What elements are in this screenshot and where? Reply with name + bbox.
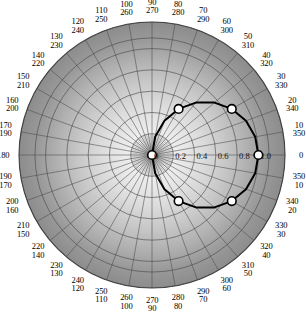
angle-tick-label-secondary: 130 xyxy=(50,269,62,278)
angle-tick-label-290: 29070 xyxy=(197,287,209,304)
angle-tick-label-90: 90270 xyxy=(146,0,158,15)
angle-tick-label-secondary: 80 xyxy=(172,302,184,311)
angle-tick-label-secondary: 270 xyxy=(146,6,158,15)
angle-tick-label-120: 120240 xyxy=(72,17,84,34)
angle-tick-label-340: 34020 xyxy=(286,197,298,214)
angle-tick-label-secondary: 170 xyxy=(0,181,12,190)
angle-tick-label-110: 110250 xyxy=(95,6,107,23)
angle-tick-label-80: 80280 xyxy=(172,0,184,17)
angle-tick-label-40: 40320 xyxy=(260,51,272,68)
angle-tick-label-secondary: 20 xyxy=(286,206,298,215)
angle-tick-label-320: 32040 xyxy=(260,242,272,259)
angle-tick-label-310: 31050 xyxy=(242,261,254,278)
angle-tick-label-secondary: 350 xyxy=(293,129,305,138)
angle-tick-label-50: 50310 xyxy=(242,32,254,49)
angle-tick-label-secondary: 120 xyxy=(72,284,84,293)
angle-tick-label-20: 20340 xyxy=(286,96,298,113)
angle-tick-label-280: 28080 xyxy=(172,293,184,310)
angle-tick-label-secondary: 40 xyxy=(260,251,272,260)
angle-tick-label-secondary: 230 xyxy=(50,41,62,50)
angle-tick-label-secondary: 240 xyxy=(72,26,84,35)
angle-tick-label-260: 260100 xyxy=(120,293,132,310)
angle-tick-label-160: 160200 xyxy=(6,96,18,113)
angle-tick-label-270: 27090 xyxy=(146,296,158,313)
angle-tick-label-350: 35010 xyxy=(293,172,305,189)
angle-tick-label-secondary: 70 xyxy=(197,295,209,304)
angle-tick-label-30: 30330 xyxy=(275,72,287,89)
angle-tick-label-70: 70290 xyxy=(197,6,209,23)
angle-tick-label-secondary: 300 xyxy=(221,26,233,35)
angle-tick-label-secondary: 280 xyxy=(172,8,184,17)
angle-tick-label-secondary: 100 xyxy=(120,302,132,311)
radial-tick-label-0.2: 0.2 xyxy=(175,151,186,161)
angle-tick-label-210: 210150 xyxy=(17,221,29,238)
angle-tick-label-primary: 0 xyxy=(299,150,303,160)
angle-tick-label-150: 150210 xyxy=(17,72,29,89)
radial-tick-label-0.6: 0.6 xyxy=(218,151,229,161)
angle-tick-label-60: 60300 xyxy=(221,17,233,34)
angle-tick-label-secondary: 210 xyxy=(17,81,29,90)
angle-tick-label-300: 30060 xyxy=(221,276,233,293)
angle-tick-label-secondary: 220 xyxy=(32,59,44,68)
angle-tick-label-170: 170190 xyxy=(0,121,12,138)
angle-tick-label-secondary: 200 xyxy=(6,104,18,113)
angle-tick-label-secondary: 290 xyxy=(197,15,209,24)
angle-tick-label-primary: 180 xyxy=(0,150,9,160)
radial-tick-label-0.8: 0.8 xyxy=(239,151,250,161)
angle-tick-label-190: 190170 xyxy=(0,172,12,189)
angle-tick-label-secondary: 110 xyxy=(95,295,107,304)
angle-tick-label-220: 220140 xyxy=(32,242,44,259)
angle-tick-label-secondary: 250 xyxy=(95,15,107,24)
angle-tick-label-200: 200160 xyxy=(6,197,18,214)
angle-tick-label-secondary: 190 xyxy=(0,129,12,138)
angle-tick-label-secondary: 30 xyxy=(275,230,287,239)
angle-tick-label-130: 130230 xyxy=(50,32,62,49)
angle-tick-label-secondary: 320 xyxy=(260,59,272,68)
angle-tick-label-secondary: 150 xyxy=(17,230,29,239)
radial-tick-label-0: 0 xyxy=(154,151,158,161)
angle-tick-label-0: 0 xyxy=(299,151,303,160)
angle-tick-label-230: 230130 xyxy=(50,261,62,278)
angle-tick-label-10: 10350 xyxy=(293,121,305,138)
angle-tick-label-secondary: 140 xyxy=(32,251,44,260)
angle-tick-label-240: 240120 xyxy=(72,276,84,293)
angle-tick-label-330: 33030 xyxy=(275,221,287,238)
angle-tick-label-secondary: 330 xyxy=(275,81,287,90)
angle-tick-label-140: 140220 xyxy=(32,51,44,68)
angle-tick-label-180: 180 xyxy=(0,151,9,160)
radial-tick-label-0.4: 0.4 xyxy=(197,151,208,161)
angle-tick-label-secondary: 10 xyxy=(293,181,305,190)
angle-tick-label-secondary: 50 xyxy=(242,269,254,278)
angle-tick-label-secondary: 90 xyxy=(146,304,158,313)
angle-tick-label-250: 250110 xyxy=(95,287,107,304)
radial-tick-label-1.0: 1.0 xyxy=(260,151,271,161)
angle-tick-label-secondary: 260 xyxy=(120,8,132,17)
angle-tick-label-secondary: 60 xyxy=(221,284,233,293)
angle-tick-label-secondary: 340 xyxy=(286,104,298,113)
angle-tick-label-100: 100260 xyxy=(120,0,132,17)
angle-tick-label-secondary: 160 xyxy=(6,206,18,215)
angle-tick-label-secondary: 310 xyxy=(242,41,254,50)
